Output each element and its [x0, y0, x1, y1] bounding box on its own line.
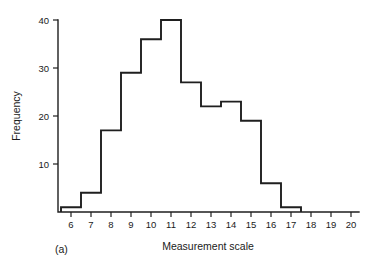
y-tick-label-30: 30 [38, 63, 49, 74]
x-axis-ticks: 67891011121314151617181920 [68, 212, 356, 230]
x-tick-label-20: 20 [346, 219, 357, 230]
x-tick-label-6: 6 [68, 219, 73, 230]
frequency-histogram-plot: 10203040 67891011121314151617181920 Meas… [0, 0, 377, 269]
y-axis-ticks: 10203040 [38, 15, 58, 170]
x-tick-label-10: 10 [146, 219, 157, 230]
x-tick-label-7: 7 [88, 219, 93, 230]
x-tick-label-16: 16 [266, 219, 277, 230]
x-tick-label-17: 17 [286, 219, 297, 230]
histogram-figure: 10203040 67891011121314151617181920 Meas… [0, 0, 377, 269]
y-axis-title: Frequency [10, 90, 22, 140]
x-tick-label-19: 19 [326, 219, 337, 230]
figure-caption: (a) [55, 243, 68, 255]
x-tick-label-8: 8 [108, 219, 113, 230]
x-tick-label-18: 18 [306, 219, 317, 230]
histogram-outline [61, 20, 301, 212]
x-tick-label-9: 9 [128, 219, 133, 230]
y-tick-label-40: 40 [38, 15, 49, 26]
x-tick-label-14: 14 [226, 219, 237, 230]
x-axis-title: Measurement scale [162, 240, 254, 252]
y-tick-label-20: 20 [38, 111, 49, 122]
x-tick-label-11: 11 [166, 219, 176, 230]
x-tick-label-12: 12 [186, 219, 197, 230]
plot-axes [58, 20, 359, 212]
y-tick-label-10: 10 [38, 159, 49, 170]
x-tick-label-15: 15 [246, 219, 257, 230]
x-tick-label-13: 13 [206, 219, 217, 230]
